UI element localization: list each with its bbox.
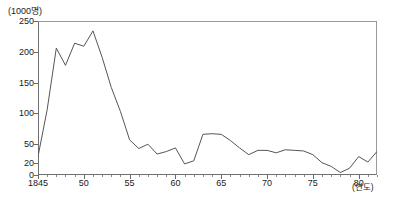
x-axis-tick-label: 75: [308, 178, 318, 188]
y-axis-tick-label: 150: [8, 78, 34, 88]
x-axis-tick-mark-minor: [340, 175, 341, 177]
x-axis-tick-mark-major: [267, 175, 268, 179]
x-axis-tick-label: 60: [170, 178, 180, 188]
x-axis-tick-mark-minor: [120, 175, 121, 177]
x-axis-tick-mark-minor: [212, 175, 213, 177]
x-axis-tick-mark-minor: [377, 175, 378, 177]
x-axis-tick-mark-minor: [350, 175, 351, 177]
x-axis-tick-mark-minor: [65, 175, 66, 177]
x-axis-tick-mark-minor: [285, 175, 286, 177]
x-axis-tick-mark-minor: [203, 175, 204, 177]
y-axis-tick-label: 50: [8, 139, 34, 149]
x-axis-tick-label: 50: [79, 178, 89, 188]
x-axis-tick-mark-minor: [249, 175, 250, 177]
y-axis-tick-label: 100: [8, 108, 34, 118]
x-axis-tick-mark-major: [313, 175, 314, 179]
y-axis-tick-label: 0: [8, 170, 34, 180]
y-axis-tick-mark: [34, 175, 38, 176]
line-series-svg: [38, 21, 377, 175]
x-axis-tick-label: 1845: [28, 178, 48, 188]
x-axis-tick-mark-major: [38, 175, 39, 179]
y-axis-tick-label: 250: [8, 16, 34, 26]
x-axis-tick-label: 70: [262, 178, 272, 188]
x-axis-tick-label: 65: [216, 178, 226, 188]
y-axis-tick-label: 200: [8, 47, 34, 57]
x-axis-tick-mark-minor: [230, 175, 231, 177]
x-axis-tick-label: 55: [125, 178, 135, 188]
x-axis-tick-mark-minor: [111, 175, 112, 177]
x-axis-unit-label: (연도): [352, 180, 374, 192]
x-axis-tick-mark-minor: [322, 175, 323, 177]
x-axis-tick-mark-major: [84, 175, 85, 179]
y-axis-unit-label: (1000명): [8, 4, 42, 17]
x-axis-tick-mark-minor: [93, 175, 94, 177]
y-axis-tick-label: 20: [8, 158, 34, 168]
x-axis-tick-mark-minor: [240, 175, 241, 177]
x-axis-tick-mark-minor: [148, 175, 149, 177]
x-axis-tick-mark-minor: [276, 175, 277, 177]
x-axis-tick-mark-minor: [56, 175, 57, 177]
x-axis-tick-mark-major: [175, 175, 176, 179]
x-axis-tick-mark-minor: [102, 175, 103, 177]
x-axis-tick-mark-minor: [166, 175, 167, 177]
plot-area: [38, 21, 377, 175]
x-axis-tick-mark-minor: [139, 175, 140, 177]
x-axis-tick-mark-minor: [75, 175, 76, 177]
x-axis-tick-mark-minor: [47, 175, 48, 177]
x-axis-tick-mark-major: [130, 175, 131, 179]
x-axis-tick-mark-minor: [194, 175, 195, 177]
chart-root: (1000명) 02050100150200250184550556065707…: [0, 0, 393, 199]
x-axis-tick-mark-minor: [368, 175, 369, 177]
x-axis-tick-mark-minor: [331, 175, 332, 177]
x-axis-tick-mark-minor: [295, 175, 296, 177]
x-axis-tick-mark-minor: [304, 175, 305, 177]
x-axis-tick-mark-major: [359, 175, 360, 179]
x-axis-tick-mark-minor: [258, 175, 259, 177]
x-axis-tick-mark-minor: [185, 175, 186, 177]
x-axis-tick-mark-major: [221, 175, 222, 179]
x-axis-tick-mark-minor: [157, 175, 158, 177]
